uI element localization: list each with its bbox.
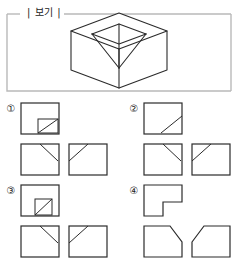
option-2-figure xyxy=(123,98,246,183)
option-3-bottom-right-shape xyxy=(69,226,107,257)
option-4-bottom-right-shape xyxy=(192,226,230,257)
option-2-bottom-left-shape xyxy=(144,144,182,175)
option-1[interactable]: ① xyxy=(0,98,123,183)
cube-with-pyramid-notch-figure xyxy=(6,8,232,92)
option-3-bottom-left-shape xyxy=(21,226,59,257)
option-2[interactable]: ② xyxy=(123,98,246,183)
example-label: | 보기 | xyxy=(24,7,64,19)
option-4-figure xyxy=(123,180,246,265)
option-4[interactable]: ④ xyxy=(123,180,246,265)
option-1-top-shape xyxy=(21,103,59,134)
option-4-bottom-left-shape xyxy=(144,226,182,257)
option-1-bottom-right-shape xyxy=(69,144,107,175)
option-3-figure xyxy=(0,180,123,265)
example-panel: | 보기 | xyxy=(6,8,232,92)
options-grid: ① ② xyxy=(0,98,246,268)
option-2-bottom-right-shape xyxy=(192,144,230,175)
option-1-bottom-left-shape xyxy=(21,144,59,175)
option-4-top-shape xyxy=(144,185,182,216)
option-2-top-shape xyxy=(144,103,182,134)
option-1-figure xyxy=(0,98,123,183)
option-3[interactable]: ③ xyxy=(0,180,123,265)
option-3-top-shape xyxy=(21,185,59,216)
